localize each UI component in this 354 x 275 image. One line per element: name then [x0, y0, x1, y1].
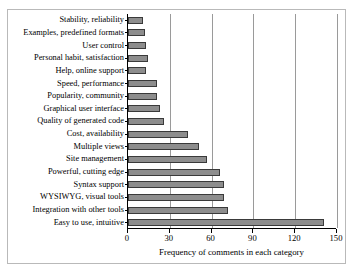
category-label: Easy to use, intuitive — [0, 216, 124, 229]
y-axis-tick — [125, 45, 128, 46]
bar — [128, 131, 188, 138]
bar-row — [128, 140, 337, 153]
category-label: Stability, reliability — [0, 14, 124, 27]
bar-row — [128, 103, 337, 116]
category-label: Syntax support — [0, 178, 124, 191]
x-axis-title: Frequency of comments in each category — [127, 247, 336, 257]
category-label: Speed, performance — [0, 77, 124, 90]
bar — [128, 17, 143, 24]
bar-row — [128, 166, 337, 179]
x-axis-tick-label: 120 — [288, 233, 301, 243]
bar — [128, 207, 228, 214]
bar-row — [128, 52, 337, 65]
y-axis-tick — [125, 159, 128, 160]
bar-chart-figure: Stability, reliabilityExamples, predefin… — [0, 0, 354, 275]
category-label: Personal habit, satisfaction — [0, 52, 124, 65]
bar-row — [128, 115, 337, 128]
bar-row — [128, 204, 337, 217]
bar — [128, 118, 164, 125]
bar — [128, 93, 157, 100]
bar — [128, 169, 220, 176]
x-axis-tick-label: 0 — [125, 233, 129, 243]
bar — [128, 29, 145, 36]
bar-row — [128, 178, 337, 191]
category-label: Popularity, community — [0, 90, 124, 103]
bar-row — [128, 14, 337, 27]
y-axis-tick — [125, 70, 128, 71]
y-axis-tick — [125, 222, 128, 223]
y-axis-tick — [125, 134, 128, 135]
plot-area — [127, 14, 336, 229]
category-label: Examples, predefined formats — [0, 27, 124, 40]
bar — [128, 105, 160, 112]
category-label: WYSIWYG, visual tools — [0, 191, 124, 204]
y-axis-tick — [125, 20, 128, 21]
bar-row — [128, 65, 337, 78]
bar — [128, 143, 199, 150]
category-label: Site management — [0, 153, 124, 166]
category-label: Cost, availability — [0, 128, 124, 141]
x-axis-tick-label: 30 — [165, 233, 174, 243]
y-axis-tick — [125, 210, 128, 211]
x-axis-tick-label: 90 — [248, 233, 257, 243]
bar — [128, 156, 207, 163]
bar — [128, 67, 146, 74]
y-axis-tick — [125, 32, 128, 33]
bar-row — [128, 191, 337, 204]
y-axis-tick — [125, 58, 128, 59]
y-axis-tick — [125, 96, 128, 97]
y-axis-category-labels: Stability, reliabilityExamples, predefin… — [0, 14, 127, 229]
bar-row — [128, 128, 337, 141]
bar-row — [128, 77, 337, 90]
y-axis-tick — [125, 172, 128, 173]
category-label: Quality of generated code — [0, 115, 124, 128]
x-axis-tick-label: 60 — [206, 233, 215, 243]
category-label: Integration with other tools — [0, 204, 124, 217]
y-axis-tick — [125, 121, 128, 122]
bar-row — [128, 90, 337, 103]
y-axis-tick — [125, 83, 128, 84]
y-axis-tick — [125, 184, 128, 185]
category-label: User control — [0, 39, 124, 52]
category-label: Help, online support — [0, 65, 124, 78]
category-label: Powerful, cutting edge — [0, 166, 124, 179]
category-label: Multiple views — [0, 140, 124, 153]
bar-row — [128, 216, 337, 229]
y-axis-tick — [125, 146, 128, 147]
x-axis-tick-label: 150 — [330, 233, 343, 243]
bar-row — [128, 153, 337, 166]
gridline-150 — [337, 14, 338, 228]
y-axis-tick — [125, 108, 128, 109]
bar — [128, 42, 146, 49]
bar — [128, 80, 157, 87]
bar — [128, 55, 148, 62]
bar-row — [128, 27, 337, 40]
bar — [128, 219, 324, 226]
y-axis-tick — [125, 197, 128, 198]
category-label: Graphical user interface — [0, 103, 124, 116]
bar-row — [128, 39, 337, 52]
bar — [128, 181, 224, 188]
bar — [128, 194, 224, 201]
